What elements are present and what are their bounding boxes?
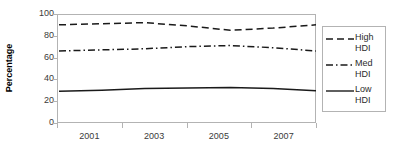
y-axis-tick-label: 40 [28, 74, 54, 83]
legend-line-swatch [326, 61, 354, 69]
y-axis-tick-mark [53, 79, 57, 80]
legend-label-primary: High [355, 32, 374, 43]
legend-label-secondary: HDI [355, 43, 371, 54]
y-axis-tick-label: 80 [28, 31, 54, 40]
chart-legend: HighHDIMedHDILowHDI [322, 26, 386, 112]
x-axis-tick-mark [57, 123, 58, 128]
y-axis-tick-labels: 100806040200 [26, 0, 54, 153]
x-axis-tick-mark [251, 123, 252, 128]
legend-entry-high-hdi[interactable]: HighHDI [323, 31, 385, 57]
series-line-low-hdi [59, 87, 316, 91]
legend-line-swatch [326, 87, 354, 95]
plot-area [57, 14, 316, 123]
x-axis-tick-mark [122, 123, 123, 128]
x-axis-tick-label: 2001 [57, 131, 121, 142]
x-axis-tick-label: 2005 [187, 131, 251, 142]
y-axis-tick-label: 100 [28, 9, 54, 18]
y-axis-tick-mark [53, 36, 57, 37]
x-axis-tick-mark [187, 123, 188, 128]
legend-label-primary: Low [355, 84, 372, 95]
y-axis-title: Percentage [2, 26, 16, 110]
x-axis-tick-label: 2007 [252, 131, 316, 142]
series-line-med-hdi [59, 46, 316, 51]
y-axis-tick-mark [53, 101, 57, 102]
legend-label-secondary: HDI [355, 69, 371, 80]
series-line-high-hdi [59, 23, 316, 31]
legend-entry-med-hdi[interactable]: MedHDI [323, 57, 385, 83]
legend-entry-low-hdi[interactable]: LowHDI [323, 83, 385, 109]
legend-label-secondary: HDI [355, 95, 371, 106]
plot-lines [58, 15, 317, 124]
y-axis-tick-mark [53, 58, 57, 59]
y-axis-tick-label: 20 [28, 96, 54, 105]
legend-label-primary: Med [355, 58, 373, 69]
y-axis-tick-label: 0 [28, 118, 54, 127]
legend-line-swatch [326, 35, 354, 43]
x-axis-tick-mark [316, 123, 317, 128]
y-axis-tick-mark [53, 14, 57, 15]
x-axis-tick-label: 2003 [122, 131, 186, 142]
y-axis-tick-label: 60 [28, 53, 54, 62]
chart-screenshot: Percentage 100806040200 HighHDIMedHDILow… [0, 0, 401, 153]
